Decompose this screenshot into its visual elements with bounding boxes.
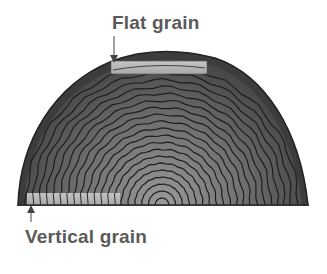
- vertical-grain-label: Vertical grain: [25, 226, 147, 248]
- log-wood: [24, 59, 302, 205]
- flat-grain-board: [111, 61, 207, 74]
- vertical-grain-board: [27, 193, 120, 205]
- flat-grain-label: Flat grain: [112, 12, 200, 34]
- vertical-grain-arrow-icon: [27, 205, 35, 222]
